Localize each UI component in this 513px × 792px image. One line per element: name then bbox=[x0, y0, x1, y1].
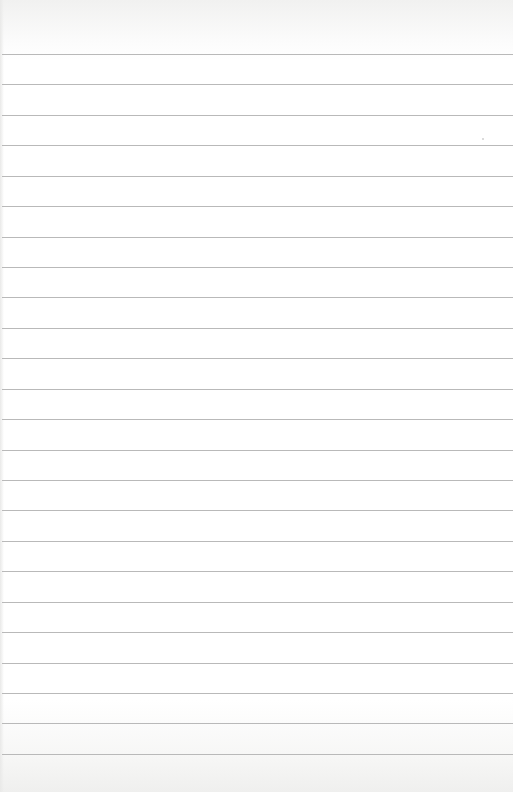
ruled-line bbox=[2, 297, 513, 298]
ruled-line bbox=[2, 663, 513, 664]
ruled-line bbox=[2, 358, 513, 359]
ruled-line bbox=[2, 145, 513, 146]
ruled-line bbox=[2, 541, 513, 542]
ruled-line bbox=[2, 237, 513, 238]
ruled-line bbox=[2, 571, 513, 572]
ruled-line bbox=[2, 510, 513, 511]
paper-speck bbox=[482, 138, 484, 140]
ruled-line bbox=[2, 267, 513, 268]
ruled-line bbox=[2, 84, 513, 85]
ruled-line bbox=[2, 328, 513, 329]
ruled-line bbox=[2, 206, 513, 207]
ruled-line bbox=[2, 693, 513, 694]
ruled-line bbox=[2, 723, 513, 724]
ruled-line bbox=[2, 389, 513, 390]
ruled-line bbox=[2, 480, 513, 481]
ruled-line bbox=[2, 632, 513, 633]
ruled-line bbox=[2, 602, 513, 603]
ruled-line bbox=[2, 176, 513, 177]
ruled-line bbox=[2, 115, 513, 116]
ruled-line bbox=[2, 419, 513, 420]
ruled-line bbox=[2, 754, 513, 755]
ruled-line bbox=[2, 54, 513, 55]
paper-edge-shadow bbox=[0, 0, 4, 792]
ruled-line bbox=[2, 450, 513, 451]
lined-paper-sheet bbox=[0, 0, 513, 792]
